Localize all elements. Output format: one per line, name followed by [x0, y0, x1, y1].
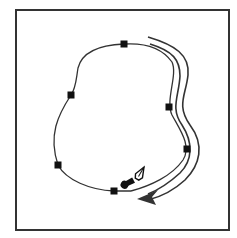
closed-bezier-path	[54, 44, 186, 191]
anchor-point-6	[111, 188, 118, 195]
anchor-points	[55, 41, 191, 195]
direction-arrow	[137, 37, 199, 205]
anchor-point-2	[68, 92, 75, 99]
anchor-point-1	[121, 41, 128, 48]
anchor-point-4	[184, 146, 191, 153]
diagram-stage	[0, 0, 237, 238]
diagram-canvas	[0, 0, 237, 238]
direction-arrow-inner-line	[148, 44, 190, 194]
anchor-point-5	[55, 162, 62, 169]
anchor-point-3	[166, 104, 173, 111]
pen-tool-icon	[119, 161, 147, 194]
